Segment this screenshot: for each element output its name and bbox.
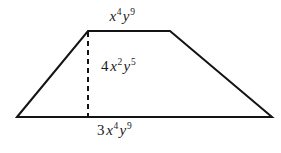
height-var-1: x <box>110 58 117 74</box>
trapezoid-figure: x4y9 4x2y5 3x4y9 <box>0 0 281 153</box>
height-coefficient: 4 <box>101 58 110 74</box>
top-base-exp-1: 4 <box>117 7 123 17</box>
bottom-base-var-2: y <box>120 122 127 138</box>
height-exp-2: 5 <box>131 57 137 67</box>
bottom-base-var-1: x <box>106 122 113 138</box>
top-base-exp-2: 9 <box>130 7 136 17</box>
trapezoid-outline <box>17 31 272 117</box>
bottom-base-coefficient: 3 <box>97 122 106 138</box>
height-label: 4x2y5 <box>101 59 137 74</box>
bottom-base-exp-1: 4 <box>114 121 120 131</box>
top-base-var-1: x <box>110 8 117 24</box>
height-exp-1: 2 <box>118 57 124 67</box>
bottom-base-label: 3x4y9 <box>97 123 133 138</box>
top-base-label: x4y9 <box>108 9 136 24</box>
height-var-2: y <box>124 58 131 74</box>
bottom-base-exp-2: 9 <box>127 121 133 131</box>
trapezoid-drawing <box>0 0 281 153</box>
